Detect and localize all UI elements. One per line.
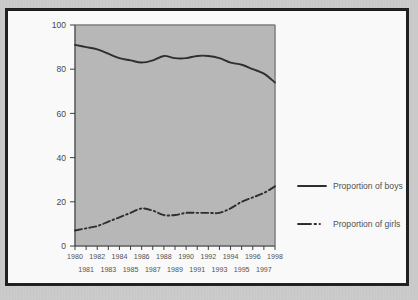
y-tick-label: 100 <box>52 20 67 30</box>
x-axis-labels-odd-years: 198119831985198719891991199319951997 <box>78 266 272 274</box>
x-tick-label: 1995 <box>234 266 250 274</box>
x-tick-label: 1989 <box>167 266 183 274</box>
page-background: 020406080100 198019821984198619881990199… <box>0 0 418 300</box>
x-tick-label: 1983 <box>100 266 116 274</box>
chart-legend: Proportion of boys Proportion of girls <box>298 181 403 229</box>
y-tick-label: 0 <box>61 241 66 251</box>
x-tick-label: 1992 <box>200 253 216 261</box>
x-tick-label: 1988 <box>156 253 172 261</box>
line-chart: 020406080100 198019821984198619881990199… <box>8 11 406 283</box>
chart-figure: 020406080100 198019821984198619881990199… <box>5 8 409 286</box>
x-tick-label: 1994 <box>223 253 239 261</box>
x-tick-label: 1998 <box>267 253 283 261</box>
x-tick-label: 1982 <box>89 253 105 261</box>
x-tick-label: 1990 <box>178 253 194 261</box>
y-axis-ticks: 020406080100 <box>52 20 75 251</box>
x-tick-label: 1981 <box>78 266 94 274</box>
x-tick-label: 1997 <box>256 266 272 274</box>
x-tick-label: 1987 <box>145 266 161 274</box>
legend-label-proportion-of-boys: Proportion of boys <box>333 181 403 191</box>
legend-label-proportion-of-girls: Proportion of girls <box>333 219 400 229</box>
y-tick-label: 20 <box>56 197 66 207</box>
y-tick-label: 40 <box>56 153 66 163</box>
x-tick-label: 1984 <box>112 253 128 261</box>
x-tick-label: 1986 <box>134 253 150 261</box>
x-axis-labels-even-years: 1980198219841986198819901992199419961998 <box>67 253 283 261</box>
y-tick-label: 80 <box>56 64 66 74</box>
x-tick-label: 1980 <box>67 253 83 261</box>
x-tick-label: 1985 <box>123 266 139 274</box>
x-tick-label: 1996 <box>245 253 261 261</box>
x-tick-label: 1991 <box>189 266 205 274</box>
chart-figure-inner: 020406080100 198019821984198619881990199… <box>8 11 406 283</box>
x-axis-ticks <box>75 246 275 250</box>
y-tick-label: 60 <box>56 109 66 119</box>
x-tick-label: 1993 <box>212 266 228 274</box>
